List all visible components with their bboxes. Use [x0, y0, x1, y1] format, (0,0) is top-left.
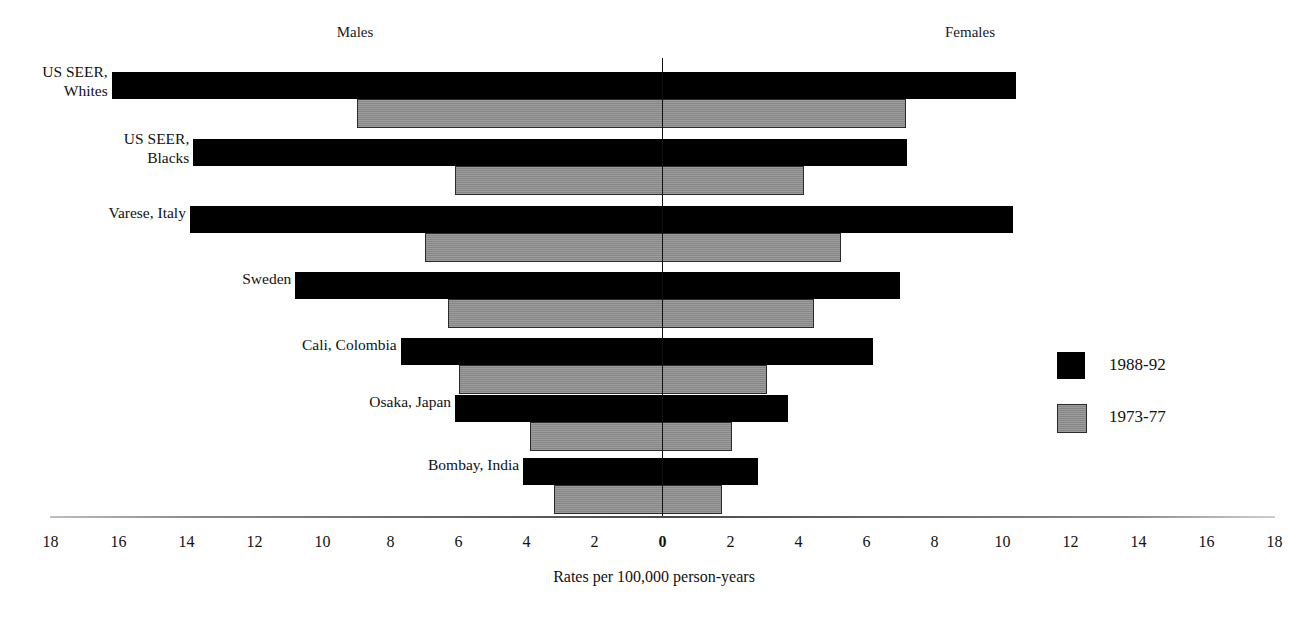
bar-1988-92-row-3: [295, 272, 900, 299]
males-header-label: Males: [337, 24, 374, 41]
x-axis-tick-label-16: 14: [1131, 533, 1147, 551]
x-axis-tick-label-3: 12: [247, 533, 263, 551]
legend-label-earlier: 1973-77: [1109, 407, 1166, 427]
category-label-line: Whites: [42, 81, 107, 100]
category-label-line: Osaka, Japan: [369, 392, 451, 411]
bar-1973-77-row-0: [357, 99, 906, 128]
x-axis-tick-label-15: 12: [1063, 533, 1079, 551]
x-axis-tick-label-4: 10: [315, 533, 331, 551]
category-label-line: US SEER,: [124, 129, 189, 148]
x-axis-tick-label-8: 2: [591, 533, 599, 551]
category-label-line: Bombay, India: [428, 455, 519, 474]
x-axis-tick-label-13: 8: [931, 533, 939, 551]
bar-1988-92-row-2: [190, 206, 1013, 233]
category-label-row-6: Bombay, India: [428, 455, 519, 474]
x-axis-tick-label-18: 18: [1267, 533, 1283, 551]
zero-axis-line: [662, 58, 664, 518]
x-axis-tick-label-12: 6: [863, 533, 871, 551]
x-axis-tick-label-17: 16: [1199, 533, 1215, 551]
category-label-line: Sweden: [242, 269, 291, 288]
x-axis-title: Rates per 100,000 person-years: [0, 568, 1308, 586]
bar-1988-92-row-1: [193, 139, 907, 166]
population-pyramid-chart: MalesFemalesUS SEER,WhitesUS SEER,Blacks…: [0, 0, 1308, 619]
bar-1988-92-row-0: [112, 72, 1016, 99]
category-label-line: Blacks: [124, 148, 189, 167]
category-label-row-2: Varese, Italy: [108, 203, 185, 222]
x-axis-tick-label-11: 4: [795, 533, 803, 551]
category-label-row-1: US SEER,Blacks: [124, 129, 189, 167]
bar-1988-92-row-6: [523, 458, 758, 485]
x-axis-tick-label-9: 0: [659, 533, 667, 551]
bar-1973-77-row-1: [455, 166, 804, 195]
bar-1973-77-row-3: [448, 299, 814, 328]
category-label-row-5: Osaka, Japan: [369, 392, 451, 411]
x-axis-tick-label-1: 16: [111, 533, 127, 551]
category-label-line: Cali, Colombia: [302, 335, 397, 354]
category-label-line: Varese, Italy: [108, 203, 185, 222]
x-axis-line: [50, 516, 1275, 518]
x-axis-tick-label-5: 8: [387, 533, 395, 551]
legend-label-recent: 1988-92: [1109, 355, 1166, 375]
bar-1973-77-row-6: [554, 485, 723, 514]
x-axis-tick-label-14: 10: [995, 533, 1011, 551]
bar-1973-77-row-5: [530, 422, 733, 451]
legend-swatch-recent: [1057, 352, 1085, 379]
x-axis-tick-label-0: 18: [43, 533, 59, 551]
bar-1973-77-row-4: [459, 365, 767, 394]
category-label-row-0: US SEER,Whites: [42, 62, 107, 100]
x-axis-tick-label-2: 14: [179, 533, 195, 551]
bar-1988-92-row-4: [401, 338, 874, 365]
category-label-row-4: Cali, Colombia: [302, 335, 397, 354]
bar-1973-77-row-2: [425, 233, 842, 262]
legend-swatch-earlier: [1057, 404, 1087, 433]
category-label-row-3: Sweden: [242, 269, 291, 288]
x-axis-tick-label-10: 2: [727, 533, 735, 551]
category-label-line: US SEER,: [42, 62, 107, 81]
x-axis-tick-label-7: 4: [523, 533, 531, 551]
x-axis-tick-label-6: 6: [455, 533, 463, 551]
bar-1988-92-row-5: [455, 395, 788, 422]
females-header-label: Females: [945, 24, 995, 41]
